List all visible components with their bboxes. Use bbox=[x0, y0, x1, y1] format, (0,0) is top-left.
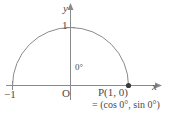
x-tick-label-minus-one: −1 bbox=[4, 89, 16, 100]
y-tick-label-one: 1 bbox=[62, 20, 68, 31]
x-axis-label: x bbox=[152, 81, 157, 92]
semicircle-diagram: y x 1 −1 O 0° P(1, 0) = (cos 0°, sin 0°) bbox=[0, 0, 172, 117]
y-axis-label: y bbox=[63, 3, 68, 14]
origin-label: O bbox=[62, 88, 70, 99]
angle-label: 0° bbox=[75, 63, 83, 72]
point-p-label: P(1, 0) bbox=[98, 87, 128, 98]
y-axis-arrowhead bbox=[68, 3, 74, 10]
point-p-coordinates-label: = (cos 0°, sin 0°) bbox=[92, 100, 160, 110]
